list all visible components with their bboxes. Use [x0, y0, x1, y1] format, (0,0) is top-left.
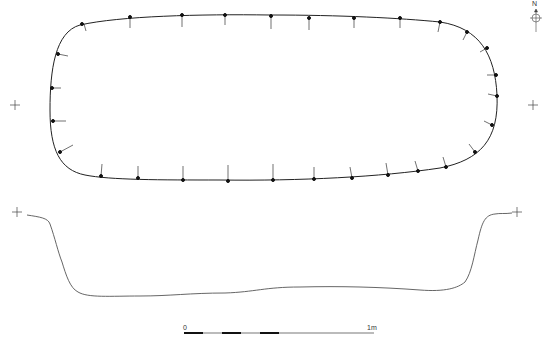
- plan-outline: [50, 15, 497, 180]
- scale-end-label: 1m: [367, 324, 377, 331]
- registration-crosses: [10, 100, 538, 217]
- scale-bar: [184, 332, 374, 334]
- north-arrow-icon: [530, 9, 542, 32]
- drawing-canvas: [0, 0, 550, 340]
- scale-start-label: 0: [183, 324, 187, 331]
- plan-hachures: [51, 14, 499, 183]
- north-label: N: [532, 0, 537, 7]
- section-profile: [27, 213, 512, 296]
